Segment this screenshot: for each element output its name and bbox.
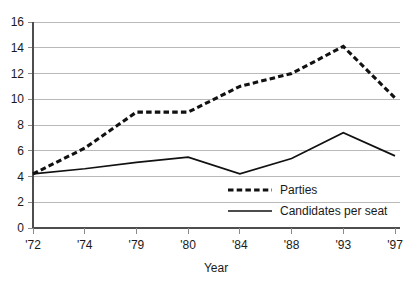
y-tick-marks-group (28, 22, 33, 228)
y-tick-label: 8 (17, 118, 24, 132)
y-tick-label: 12 (11, 67, 25, 81)
y-tick-label: 6 (17, 144, 24, 158)
chart-canvas: 0246810121416 '72'74'79'80'84'88'93'97 P… (0, 0, 410, 283)
x-tick-marks-group (33, 228, 395, 234)
series-line-parties (33, 46, 395, 173)
line-chart: 0246810121416 '72'74'79'80'84'88'93'97 P… (0, 0, 410, 283)
x-axis-title: Year (204, 261, 228, 275)
x-tick-label: '80 (180, 238, 196, 252)
y-tick-label: 4 (17, 170, 24, 184)
y-tick-label: 16 (11, 15, 25, 29)
legend-label-candidates-per-seat: Candidates per seat (280, 204, 388, 218)
chart-legend: Parties Candidates per seat (228, 183, 388, 218)
x-tick-label: '79 (129, 238, 145, 252)
y-tick-label: 0 (17, 221, 24, 235)
x-tick-label: '74 (77, 238, 93, 252)
y-tick-label: 14 (11, 41, 25, 55)
x-tick-label: '88 (284, 238, 300, 252)
series-line-candidates-per-seat (33, 133, 395, 174)
x-tick-label: '84 (232, 238, 248, 252)
x-tick-label: '97 (387, 238, 403, 252)
legend-label-parties: Parties (280, 183, 317, 197)
x-axis-tick-labels: '72'74'79'80'84'88'93'97 (25, 238, 403, 252)
y-tick-label: 2 (17, 195, 24, 209)
gridlines-group (33, 22, 400, 228)
y-tick-label: 10 (11, 92, 25, 106)
x-tick-label: '93 (335, 238, 351, 252)
y-axis-tick-labels: 0246810121416 (11, 15, 25, 235)
x-tick-label: '72 (25, 238, 41, 252)
